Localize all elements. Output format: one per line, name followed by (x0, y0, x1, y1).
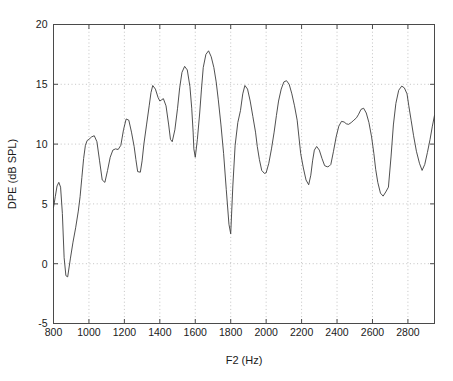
x-tick-label: 2000 (254, 326, 278, 338)
x-tick-label: 1000 (77, 326, 101, 338)
y-tick-label: 15 (36, 78, 48, 90)
x-tick-label: 2600 (361, 326, 385, 338)
chart-figure: 8001000120014001600180020002200240026002… (0, 0, 453, 381)
y-tick-label: 0 (42, 258, 48, 270)
y-axis-title: DPE (dB SPL) (6, 139, 18, 209)
y-tick-label: 10 (36, 138, 48, 150)
dpe-line-chart: 8001000120014001600180020002200240026002… (0, 0, 453, 381)
x-tick-label: 1800 (219, 326, 243, 338)
y-tick-label: -5 (38, 317, 47, 329)
x-axis-title: F2 (Hz) (226, 354, 263, 366)
x-tick-label: 2200 (290, 326, 314, 338)
x-tick-label: 2400 (325, 326, 349, 338)
x-tick-label: 2800 (396, 326, 420, 338)
y-tick-label: 20 (36, 18, 48, 30)
y-tick-label: 5 (42, 198, 48, 210)
x-tick-label: 1400 (148, 326, 172, 338)
x-tick-label: 1600 (184, 326, 208, 338)
x-tick-label: 1200 (113, 326, 137, 338)
